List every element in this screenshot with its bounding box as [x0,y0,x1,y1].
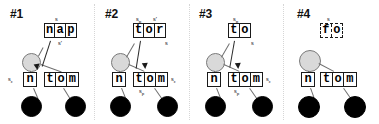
panel-2-lower-right-word-box: t o m [133,72,168,87]
panel-3-lower-left-cell-0: n [208,73,220,86]
panel-2-upper-topright-label: s' [153,16,157,23]
panel-1-upper-cell-0: n [45,24,55,37]
panel-4-title: #4 [297,8,310,20]
panel-2-lower-right-cell-0: t [134,73,145,86]
panel-4-upper-top-label: s [327,16,330,23]
panel-2: #2 sp s' t o r s n t o m [95,0,190,124]
panel-2-upper-cell-0: t [134,24,144,37]
panel-1-filled-node-right [65,96,86,117]
panel-4-lower-left-word-box: n [301,72,315,87]
panel-3-lower-right-cell-0: t [229,73,240,86]
panel-3-filled-node-right [252,96,273,117]
panel-1-upper-cell-2: p [66,24,76,37]
panel-1-lower-left-label: sε [8,76,13,83]
panel-1-arrow-head [34,64,41,71]
panel-2-lower-right-label: sε [171,76,176,83]
panel-3-upper-cell-1: o [240,24,250,37]
panel-2-upper-bottom-label-text: s [165,39,168,47]
panel-4: #4 s f o n t o m [284,0,379,124]
panel-1-upper-cell-1: a [55,24,65,37]
panel-3-edge-open-to-upper [221,43,230,57]
panel-1-lower-right-word-box: t o m [44,72,79,87]
panel-1-lower-right-cell-2: m [67,73,78,86]
panel-2-title: #2 [105,8,118,20]
panel-3-lower-below-label: sp [234,88,239,95]
panel-2-lower-right-label-sub: ε [174,79,176,84]
panel-3-upper-word-box: t o [228,23,251,38]
figure-canvas: #1 s n a p s' sε n [0,0,379,124]
panel-1: #1 s n a p s' sε n [0,0,95,124]
panel-2-lower-left-cell-0: n [113,73,125,86]
panel-2-lower-left-word-box: n [112,72,126,87]
panel-4-lower-right-cell-2: m [344,73,356,86]
panel-3-filled-node-left [205,96,226,117]
panel-1-lower-left-label-sub: ε [11,79,13,84]
panel-3-arrow-head [235,63,241,69]
panel-3: #3 sp t o s n t o m sε sp [190,0,285,124]
panel-2-lower-below-label-sub: p [142,91,145,96]
panel-1-title: #1 [10,8,23,20]
panel-2-filled-node-right [157,96,178,117]
panel-1-lower-left-cell-0: n [24,73,36,86]
panel-3-lower-below-label-sub: p [237,91,240,96]
panel-4-upper-top-label-text: s [327,15,330,23]
panel-2-lower-right-cell-2: m [156,73,167,86]
panel-3-lower-right-word-box: t o m [228,72,263,87]
panel-3-upper-bottom-label-text: s [251,39,254,47]
panel-2-lower-right-cell-1: o [145,73,155,86]
panel-2-arrow-head [142,63,148,69]
panel-2-upper-cell-1: o [144,24,154,37]
panel-1-lower-right-cell-0: t [45,73,56,86]
panel-2-upper-top-label: sp [136,16,141,23]
panel-4-lower-right-cell-0: t [321,73,333,86]
panel-4-upper-word-box: f o [320,23,343,38]
panel-1-edge-open-to-upper [38,47,44,56]
panel-3-lower-right-label-sub: ε [269,79,271,84]
panel-3-upper-cell-0: t [229,24,240,37]
panel-2-edge-open-to-upper [126,43,135,57]
panel-2-upper-word-box: t o r [133,23,166,38]
panel-3-upper-bottom-label: s [251,40,254,47]
panel-4-filled-node-right [344,96,366,118]
panel-4-upper-cell-0: f [321,24,332,37]
panel-3-lower-left-word-box: n [207,72,221,87]
panel-1-upper-top-label-text: s [55,15,58,23]
panel-2-upper-topright-label-text: s' [153,15,157,23]
panel-3-upper-top-label: sp [233,16,238,23]
panel-4-upper-cell-1: o [332,24,342,37]
panel-3-lower-right-cell-1: o [240,73,250,86]
panel-1-lower-left-word-box: n [23,72,37,87]
panel-4-open-node [299,50,321,72]
panel-1-upper-bottom-label-text: s' [58,39,62,47]
panel-2-arrow-line [136,41,141,69]
panel-4-lower-left-cell-0: n [302,73,314,86]
panel-3-lower-right-label: sε [266,76,271,83]
panel-4-lower-right-cell-1: o [333,73,343,86]
panel-2-upper-bottom-label: s [165,40,168,47]
panel-4-filled-node-left [298,96,320,118]
panel-1-arrow-line [42,41,51,67]
panel-3-title: #3 [199,8,212,20]
panel-1-upper-bottom-label: s' [58,40,62,47]
panel-2-upper-cell-2: r [155,24,165,37]
panel-1-lower-right-cell-1: o [56,73,66,86]
panel-2-lower-below-label: sp [139,88,144,95]
panel-4-lower-right-word-box: t o m [320,72,357,87]
panel-1-upper-top-label: s [55,16,58,23]
panel-4-edge-open-to-tom [319,63,334,72]
panel-2-filled-node-left [110,96,131,117]
panel-3-lower-right-cell-2: m [251,73,262,86]
panel-1-upper-word-box: n a p [44,23,77,38]
panel-1-filled-node-left [21,96,42,117]
